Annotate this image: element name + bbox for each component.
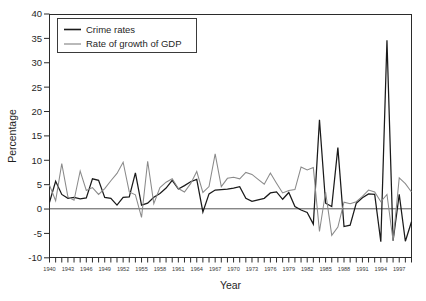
x-tick-label: 1985 bbox=[319, 266, 331, 272]
line-chart: 4035302520151050-5-10 194019431946194919… bbox=[0, 0, 426, 301]
x-tick-label: 1997 bbox=[393, 266, 405, 272]
chart-legend[interactable]: Crime ratesRate of growth of GDP bbox=[58, 19, 197, 53]
y-tick-label: 10 bbox=[31, 155, 42, 166]
y-axis-title: Percentage bbox=[6, 109, 18, 163]
legend-label-crime-rates: Crime rates bbox=[86, 24, 135, 35]
x-tick-label: 1955 bbox=[135, 266, 147, 272]
legend-label-gdp-growth: Rate of growth of GDP bbox=[86, 38, 182, 49]
x-tick-label: 1994 bbox=[375, 266, 387, 272]
y-tick-label: 25 bbox=[31, 82, 42, 93]
x-tick-label: 1940 bbox=[43, 266, 55, 272]
x-tick-label: 1961 bbox=[172, 266, 184, 272]
y-tick-label: 5 bbox=[37, 179, 42, 190]
y-tick-label: 20 bbox=[31, 106, 42, 117]
y-tick-label: 30 bbox=[31, 57, 42, 68]
x-tick-label: 1964 bbox=[191, 266, 203, 272]
x-tick-label: 1946 bbox=[80, 266, 92, 272]
x-tick-label: 1988 bbox=[338, 266, 350, 272]
x-tick-label: 1943 bbox=[62, 266, 74, 272]
y-tick-label: 40 bbox=[31, 8, 42, 19]
y-tick-label: 15 bbox=[31, 130, 42, 141]
y-tick-label: -5 bbox=[34, 228, 42, 239]
x-tick-label: 1958 bbox=[154, 266, 166, 272]
y-tick-label: 35 bbox=[31, 33, 42, 44]
x-tick-label: 1979 bbox=[283, 266, 295, 272]
x-tick-label: 1991 bbox=[356, 266, 368, 272]
x-tick-label: 1982 bbox=[301, 266, 313, 272]
x-tick-label: 1967 bbox=[209, 266, 221, 272]
y-tick-label: 0 bbox=[37, 203, 42, 214]
x-tick-label: 1952 bbox=[117, 266, 129, 272]
x-tick-label: 1973 bbox=[246, 266, 258, 272]
chart-figure: 4035302520151050-5-10 194019431946194919… bbox=[0, 0, 426, 301]
y-tick-label: -10 bbox=[28, 252, 42, 263]
x-tick-label: 1949 bbox=[98, 266, 110, 272]
x-tick-label: 1970 bbox=[227, 266, 239, 272]
x-tick-label: 1976 bbox=[264, 266, 276, 272]
x-axis-title: Year bbox=[220, 279, 242, 291]
